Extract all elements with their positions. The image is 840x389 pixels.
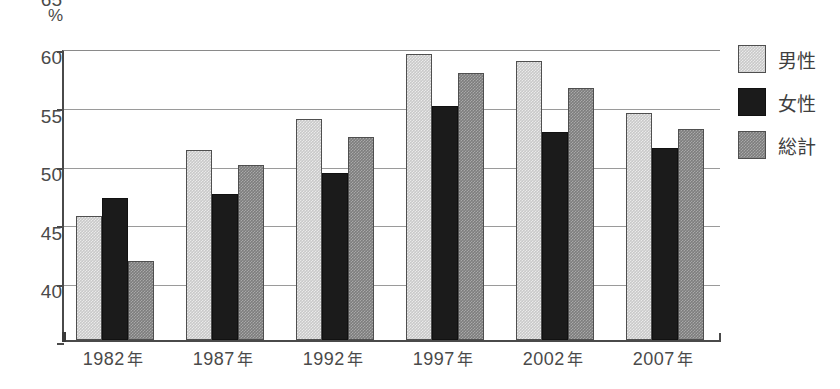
- bars-layer: [64, 51, 720, 340]
- bar-1982年-総計: [128, 261, 154, 340]
- bar-1997年-女性: [432, 106, 458, 340]
- legend: 男性女性総計: [738, 44, 838, 173]
- bar-1982年-女性: [102, 198, 128, 340]
- bar-2002年-男性: [516, 61, 542, 340]
- y-axis-tick-labels: 404550556065: [0, 0, 62, 292]
- legend-item-total: 総計: [738, 130, 838, 160]
- y-axis-tick-label: 50: [16, 164, 62, 186]
- y-axis-tick-label: 55: [16, 106, 62, 128]
- x-axis-tick-label: 2007年: [633, 346, 694, 370]
- x-axis-tick-label: 1987年: [193, 346, 254, 370]
- bar-1997年-男性: [406, 54, 432, 340]
- bar-chart: % 404550556065 1982年1987年1992年1997年2002年…: [0, 0, 840, 389]
- y-axis-tick-label: 45: [16, 223, 62, 245]
- plot-area: [62, 50, 720, 342]
- bar-2007年-総計: [678, 129, 704, 340]
- bar-1987年-男性: [186, 150, 212, 340]
- legend-item-female: 女性: [738, 87, 838, 117]
- legend-swatch-male: [738, 45, 766, 73]
- legend-item-male: 男性: [738, 44, 838, 74]
- y-axis-tick-label: 60: [16, 47, 62, 69]
- x-axis-tick-label: 1997年: [413, 346, 474, 370]
- legend-swatch-total: [738, 131, 766, 159]
- y-axis-tick-label: 65: [16, 0, 62, 11]
- y-axis-tick: [57, 285, 64, 287]
- y-axis-tick: [57, 168, 64, 170]
- x-axis-tick-label: 1992年: [303, 346, 364, 370]
- legend-label: 総計: [778, 132, 816, 159]
- y-axis-tick: [57, 51, 64, 53]
- x-axis-tick-labels: 1982年1987年1992年1997年2002年2007年: [62, 346, 720, 386]
- x-axis-tick-label: 1982年: [83, 346, 144, 370]
- y-axis-tick-label: 40: [16, 281, 62, 303]
- bar-2002年-女性: [542, 132, 568, 340]
- bar-1987年-総計: [238, 165, 264, 340]
- bar-1992年-総計: [348, 137, 374, 340]
- bar-1992年-女性: [322, 173, 348, 340]
- legend-swatch-female: [738, 88, 766, 116]
- bar-2007年-男性: [626, 113, 652, 340]
- legend-label: 女性: [778, 89, 816, 116]
- x-axis-tick-label: 2002年: [523, 346, 584, 370]
- bar-2007年-女性: [652, 148, 678, 340]
- y-axis-tick: [57, 109, 64, 111]
- legend-label: 男性: [778, 46, 816, 73]
- bar-1992年-男性: [296, 119, 322, 340]
- bar-1997年-総計: [458, 73, 484, 340]
- y-axis-tick: [57, 226, 64, 228]
- bar-2002年-総計: [568, 88, 594, 340]
- y-axis-tick: [57, 343, 64, 345]
- bar-1987年-女性: [212, 194, 238, 340]
- bar-1982年-男性: [76, 216, 102, 340]
